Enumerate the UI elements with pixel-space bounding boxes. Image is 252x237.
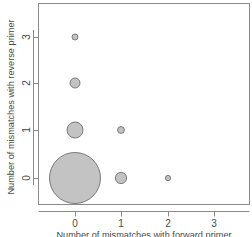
data-point bbox=[165, 175, 170, 180]
y-tick-label-2: 2 bbox=[21, 80, 32, 86]
bubble-chart: 0 1 2 3 0 1 2 3 Number of mismatches wit… bbox=[0, 0, 252, 237]
y-axis-ticks bbox=[34, 38, 39, 179]
y-tick-label-3: 3 bbox=[21, 34, 32, 40]
data-point bbox=[67, 122, 83, 138]
data-point bbox=[115, 172, 126, 183]
x-tick-label-3: 3 bbox=[211, 218, 217, 229]
x-axis-tick-labels: 0 1 2 3 bbox=[72, 218, 217, 229]
y-axis-title: Number of mismatches with reverse primer bbox=[6, 19, 16, 194]
x-tick-label-0: 0 bbox=[72, 218, 78, 229]
y-tick-label-0: 0 bbox=[21, 175, 32, 181]
data-point bbox=[70, 78, 80, 88]
data-point bbox=[50, 153, 101, 204]
plot-canvas: 0 1 2 3 0 1 2 3 Number of mismatches wit… bbox=[0, 0, 252, 237]
y-axis-tick-labels: 0 1 2 3 bbox=[21, 34, 32, 181]
y-tick-label-1: 1 bbox=[21, 127, 32, 133]
x-tick-label-2: 2 bbox=[165, 218, 171, 229]
x-tick-label-1: 1 bbox=[118, 218, 124, 229]
data-point bbox=[72, 34, 78, 40]
data-points-layer bbox=[50, 34, 171, 204]
x-axis-ticks bbox=[76, 212, 215, 217]
x-axis-title: Number of mismatches with forward primer bbox=[56, 230, 231, 237]
data-point bbox=[118, 127, 125, 134]
